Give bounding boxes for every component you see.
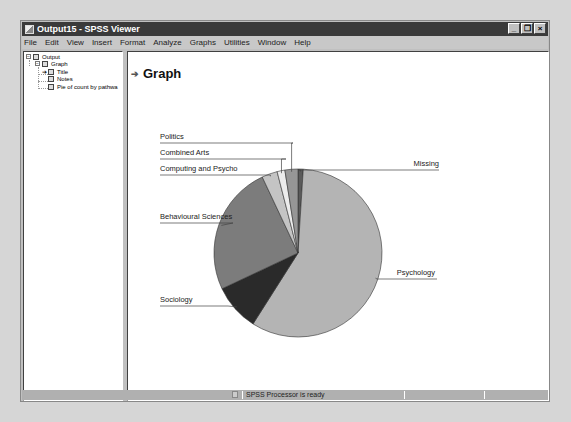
content-pane[interactable]: ➔ Graph MissingPsychologySociologyBehavi…	[127, 51, 549, 401]
pie-chart[interactable]: MissingPsychologySociologyBehavioural Sc…	[128, 52, 548, 392]
slice-label: Sociology	[160, 295, 193, 304]
status-bar: SPSS Processor is ready	[22, 390, 548, 400]
tree-node-label: Notes	[57, 76, 73, 82]
slice-label: Behavioural Sciences	[160, 212, 232, 221]
slice-label: Politics	[160, 132, 184, 141]
tree-node-notes[interactable]: Notes	[48, 75, 73, 82]
tree-connector	[38, 67, 39, 89]
slice-label: Psychology	[397, 268, 436, 277]
menu-view[interactable]: View	[63, 38, 88, 47]
status-divider	[404, 391, 405, 399]
tree-node-graph[interactable]: − Graph	[35, 60, 68, 67]
slice-label: Missing	[414, 159, 439, 168]
pie-slices	[214, 169, 382, 337]
title-icon	[48, 69, 54, 75]
tree-node-output[interactable]: − Output	[26, 53, 60, 60]
window-title: Output15 - SPSS Viewer	[37, 22, 140, 36]
menu-edit[interactable]: Edit	[41, 38, 63, 47]
status-divider	[484, 391, 485, 399]
graph-book-icon	[42, 61, 48, 67]
menu-window[interactable]: Window	[254, 38, 290, 47]
tree-node-label: Pie of count by pathwa	[57, 84, 118, 90]
collapse-icon[interactable]: −	[35, 61, 40, 66]
tree-node-label: Graph	[51, 61, 68, 67]
menu-analyze[interactable]: Analyze	[149, 38, 185, 47]
outline-pane[interactable]: − Output − Graph ➔ Title Notes Pie of co…	[23, 51, 123, 401]
slice-label: Combined Arts	[160, 148, 209, 157]
output-book-icon	[33, 54, 39, 60]
menu-utilities[interactable]: Utilities	[220, 38, 254, 47]
title-bar[interactable]: Output15 - SPSS Viewer _ ❐ ×	[22, 22, 548, 36]
menu-format[interactable]: Format	[116, 38, 149, 47]
close-button[interactable]: ×	[534, 23, 546, 34]
minimize-button[interactable]: _	[508, 23, 520, 34]
menu-graphs[interactable]: Graphs	[186, 38, 220, 47]
tree-connector	[38, 88, 48, 89]
tree-node-pie-chart[interactable]: Pie of count by pathwa	[48, 83, 118, 90]
menu-bar: File Edit View Insert Format Analyze Gra…	[22, 36, 548, 49]
menu-file[interactable]: File	[22, 38, 41, 47]
tree-node-label: Output	[42, 54, 60, 60]
processor-status-icon	[232, 391, 238, 398]
spss-app-icon[interactable]	[25, 25, 34, 34]
spss-viewer-window: Output15 - SPSS Viewer _ ❐ × File Edit V…	[20, 20, 550, 402]
chart-icon	[48, 84, 54, 90]
status-text: SPSS Processor is ready	[242, 391, 396, 399]
tree-connector	[29, 60, 30, 66]
selection-arrow-icon: ➔	[42, 68, 47, 75]
tree-node-title[interactable]: ➔ Title	[42, 68, 68, 75]
collapse-icon[interactable]: −	[26, 54, 31, 59]
leader-line	[292, 143, 293, 172]
menu-help[interactable]: Help	[290, 38, 314, 47]
slice-label: Computing and Psycho	[160, 164, 238, 173]
tree-connector	[38, 81, 48, 82]
menu-insert[interactable]: Insert	[88, 38, 116, 47]
tree-node-label: Title	[57, 69, 68, 75]
restore-button[interactable]: ❐	[521, 23, 533, 34]
notes-icon	[48, 76, 54, 82]
